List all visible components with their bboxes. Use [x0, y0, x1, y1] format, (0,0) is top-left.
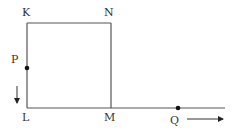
label-p: P	[11, 53, 19, 66]
label-m: M	[104, 111, 115, 124]
point-q	[176, 106, 181, 111]
geometry-diagram: K N P L M Q	[0, 0, 236, 135]
label-q: Q	[170, 114, 179, 127]
label-l: L	[22, 111, 30, 124]
point-p	[25, 66, 30, 71]
label-n: N	[104, 6, 114, 19]
label-k: K	[22, 6, 31, 19]
